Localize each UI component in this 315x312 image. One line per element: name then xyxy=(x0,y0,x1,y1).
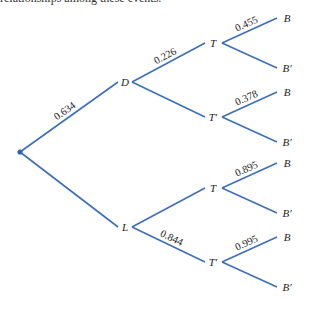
probability-tree-diagram: 0.634DL0.226TT′T0.844T′0.455BB′0.378BB′0… xyxy=(0,0,315,312)
branch-level3-1 xyxy=(222,43,277,68)
probability-label-level3-2: 0.378 xyxy=(233,88,259,108)
node-level2-2: T xyxy=(210,182,217,194)
probability-label-level2-3: 0.844 xyxy=(159,228,186,248)
node-level2-0: T xyxy=(210,37,217,49)
leaf-node-0: B xyxy=(284,12,291,24)
probability-label-level3-0: 0.455 xyxy=(233,14,259,34)
branch-root-D xyxy=(20,82,118,152)
branch-level3-7 xyxy=(222,262,277,287)
node-L: L xyxy=(121,221,128,233)
probability-label-level3-4: 0.895 xyxy=(233,159,259,179)
leaf-node-5: B′ xyxy=(282,207,292,219)
node-level2-3: T′ xyxy=(209,256,218,268)
leaf-node-4: B xyxy=(284,157,291,169)
branch-level2-1 xyxy=(132,82,205,117)
probability-label-level3-6: 0.995 xyxy=(233,233,259,253)
leaf-node-3: B′ xyxy=(282,136,292,148)
leaf-node-1: B′ xyxy=(282,62,292,74)
probability-label-level2-0: 0.226 xyxy=(152,45,178,66)
branch-root-L xyxy=(20,152,118,227)
root-node-dot xyxy=(17,149,22,154)
branch-level3-5 xyxy=(222,188,277,213)
probability-label-D: 0.634 xyxy=(52,99,78,122)
leaf-node-7: B′ xyxy=(282,281,292,293)
branch-level2-2 xyxy=(132,188,205,227)
leaf-node-6: B xyxy=(284,231,291,243)
node-level2-1: T′ xyxy=(209,111,218,123)
branch-level3-3 xyxy=(222,117,277,142)
leaf-node-2: B xyxy=(284,86,291,98)
node-D: D xyxy=(120,76,129,88)
